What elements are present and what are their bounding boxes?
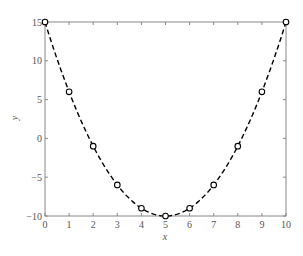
x-tick-label: 9	[259, 219, 264, 230]
data-point-marker	[42, 19, 48, 25]
y-tick-label: 10	[32, 55, 42, 66]
data-curve	[45, 22, 286, 216]
axis-ticks	[45, 22, 286, 216]
data-point-marker	[211, 182, 217, 188]
chart: 012345678910151050−5−10 x y	[0, 0, 303, 256]
data-point-marker	[90, 143, 96, 149]
y-tick-label: 0	[37, 133, 42, 144]
x-tick-label: 4	[139, 219, 144, 230]
plot-frame	[45, 22, 286, 216]
y-tick-label: 15	[32, 17, 42, 28]
x-tick-label: 2	[91, 219, 96, 230]
y-axis-label: y	[9, 115, 20, 121]
data-point-marker	[259, 89, 265, 95]
data-point-marker	[115, 182, 121, 188]
x-tick-label: 6	[187, 219, 192, 230]
data-point-marker	[187, 205, 193, 211]
x-tick-label: 3	[115, 219, 120, 230]
data-point-marker	[139, 205, 145, 211]
y-tick-label: 5	[37, 94, 42, 105]
y-tick-label: −5	[31, 172, 42, 183]
x-tick-label: 1	[67, 219, 72, 230]
y-tick-label: −10	[26, 211, 42, 222]
data-point-marker	[163, 213, 169, 219]
x-tick-label: 0	[43, 219, 48, 230]
data-point-marker	[235, 143, 241, 149]
tick-labels: 012345678910151050−5−10	[26, 17, 291, 231]
data-point-marker	[66, 89, 72, 95]
x-tick-label: 7	[211, 219, 216, 230]
x-axis-label: x	[162, 231, 168, 242]
data-point-marker	[283, 19, 289, 25]
x-tick-label: 10	[281, 219, 291, 230]
x-tick-label: 5	[163, 219, 168, 230]
data-markers	[42, 19, 289, 219]
x-tick-label: 8	[235, 219, 240, 230]
